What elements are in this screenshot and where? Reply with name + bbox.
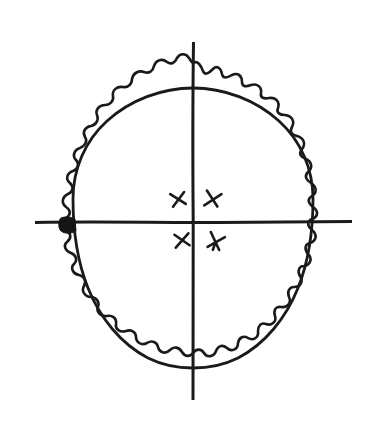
horizontal-axis (35, 222, 352, 223)
canvas-background (0, 0, 376, 430)
line-art-drawing (0, 0, 376, 430)
figure-canvas (0, 0, 376, 430)
filled-wedge-marker (59, 217, 76, 233)
wedge-shape (59, 217, 76, 233)
